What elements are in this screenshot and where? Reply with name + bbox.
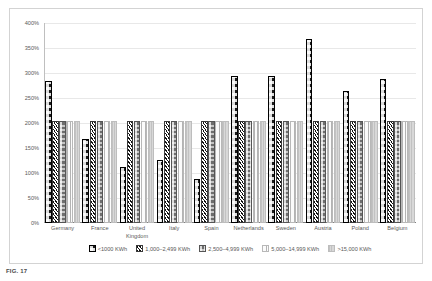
bar[interactable] (194, 179, 200, 224)
bar[interactable] (82, 139, 88, 224)
legend-item[interactable]: <1000 KWh (89, 245, 128, 252)
bar[interactable] (313, 121, 319, 223)
x-axis-labels: GermanyFranceUnited KingdomItalySpainNet… (44, 225, 416, 240)
bar-group (304, 23, 341, 223)
x-axis-tick-label: Sweden (267, 225, 304, 240)
bar[interactable] (90, 121, 96, 223)
bar[interactable] (164, 121, 170, 223)
x-axis-tick-label: Spain (193, 225, 230, 240)
chart-frame: 400%350%300%250%200%150%100%50%0% German… (9, 8, 423, 264)
bar[interactable] (364, 121, 370, 223)
bar[interactable] (253, 121, 259, 223)
bar-group (230, 23, 267, 223)
legend-label: 1,000–2,499 KWh (145, 246, 190, 252)
bar[interactable] (394, 121, 400, 223)
bar[interactable] (52, 121, 58, 223)
legend-label: 2,500–4,999 KWh (208, 246, 253, 252)
figure-caption: FIG. 17 (6, 268, 27, 274)
y-axis-tick-label: 50% (28, 195, 39, 201)
x-axis-tick-label: Germany (44, 225, 81, 240)
bar[interactable] (350, 121, 356, 223)
bar[interactable] (74, 121, 80, 223)
bar[interactable] (260, 121, 266, 223)
bar[interactable] (401, 121, 407, 223)
y-axis-tick-label: 250% (25, 95, 39, 101)
bar-group (81, 23, 118, 223)
bar[interactable] (127, 121, 133, 223)
x-axis-tick-label: Italy (156, 225, 193, 240)
y-axis-tick-label: 400% (25, 20, 39, 26)
bar[interactable] (104, 121, 110, 223)
bar[interactable] (283, 121, 289, 223)
bar[interactable] (185, 121, 191, 223)
legend-label: <1000 KWh (98, 246, 127, 252)
bar[interactable] (238, 121, 244, 223)
bar[interactable] (134, 121, 140, 223)
x-axis-tick-label: Netherlands (230, 225, 267, 240)
legend-swatch-icon (199, 245, 206, 252)
bar[interactable] (97, 121, 103, 223)
bar[interactable] (297, 121, 303, 223)
x-axis-tick-label: United Kingdom (118, 225, 155, 240)
bar[interactable] (387, 121, 393, 223)
bar-group (44, 23, 81, 223)
bar[interactable] (171, 121, 177, 223)
x-axis-tick-label: Belgium (379, 225, 416, 240)
bar[interactable] (276, 121, 282, 223)
y-axis-labels: 400%350%300%250%200%150%100%50%0% (10, 23, 42, 223)
bar[interactable] (45, 81, 51, 223)
bar-group (379, 23, 416, 223)
x-axis-tick-label: Poland (342, 225, 379, 240)
bar[interactable] (408, 121, 414, 223)
legend-swatch-icon (328, 245, 335, 252)
legend-swatch-icon (136, 245, 143, 252)
legend-item[interactable]: 1,000–2,499 KWh (136, 245, 190, 252)
bar[interactable] (245, 121, 251, 223)
legend-item[interactable]: >15,000 KWh (328, 245, 371, 252)
x-axis-tick-label: Austria (304, 225, 341, 240)
bar-group (342, 23, 379, 223)
bar[interactable] (148, 121, 154, 223)
y-axis-tick-label: 100% (25, 170, 39, 176)
legend-label: 5,000–14,999 KWh (271, 246, 319, 252)
bar[interactable] (215, 121, 221, 223)
bar-group (118, 23, 155, 223)
bar[interactable] (157, 160, 163, 223)
y-axis-tick-label: 0% (31, 220, 39, 226)
bar[interactable] (357, 121, 363, 223)
legend-swatch-icon (262, 245, 269, 252)
bar-groups (44, 23, 416, 223)
bar[interactable] (290, 121, 296, 223)
bar[interactable] (320, 121, 326, 223)
legend-label: >15,000 KWh (337, 246, 371, 252)
bar[interactable] (59, 121, 65, 223)
bar[interactable] (222, 121, 228, 223)
chart-legend: <1000 KWh1,000–2,499 KWh2,500–4,999 KWh5… (44, 245, 416, 252)
bar[interactable] (380, 79, 386, 224)
y-axis-tick-label: 300% (25, 70, 39, 76)
bar[interactable] (120, 167, 126, 223)
x-axis-tick-label: France (81, 225, 118, 240)
legend-swatch-icon (89, 245, 96, 252)
y-axis-tick-label: 200% (25, 120, 39, 126)
bar[interactable] (327, 121, 333, 223)
bar[interactable] (371, 121, 377, 223)
bar[interactable] (111, 121, 117, 223)
bar[interactable] (66, 121, 72, 223)
bar[interactable] (343, 91, 349, 223)
bar[interactable] (231, 76, 237, 223)
y-axis-tick-label: 350% (25, 45, 39, 51)
bar[interactable] (141, 121, 147, 223)
legend-item[interactable]: 2,500–4,999 KWh (199, 245, 253, 252)
bar-group (193, 23, 230, 223)
y-axis-tick-label: 150% (25, 145, 39, 151)
legend-item[interactable]: 5,000–14,999 KWh (262, 245, 319, 252)
bar[interactable] (208, 121, 214, 223)
bar[interactable] (201, 121, 207, 223)
bar[interactable] (178, 121, 184, 223)
figure-container: 400%350%300%250%200%150%100%50%0% German… (0, 0, 432, 281)
bar-group (156, 23, 193, 223)
bar[interactable] (268, 76, 274, 223)
bar[interactable] (306, 39, 312, 224)
bar[interactable] (334, 121, 340, 223)
